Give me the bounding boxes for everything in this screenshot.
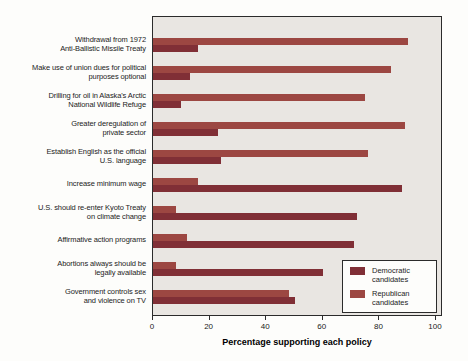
bar-democratic-1 — [153, 73, 190, 80]
bar-republican-5 — [153, 178, 198, 185]
category-label-line: private sector — [102, 128, 146, 138]
bar-democratic-5 — [153, 185, 402, 192]
legend-swatch-republican — [350, 290, 365, 298]
x-axis-tick-labels: 020406080100 — [152, 322, 442, 332]
category-label-line: Increase minimum wage — [67, 179, 146, 189]
bar-democratic-8 — [153, 269, 323, 276]
bar-democratic-2 — [153, 101, 181, 108]
bar-republican-6 — [153, 206, 176, 213]
category-label-3: Greater deregulation ofprivate sector — [0, 117, 146, 139]
bar-republican-9 — [153, 290, 289, 297]
category-label-5: Increase minimum wage — [0, 173, 146, 195]
bar-democratic-6 — [153, 213, 357, 220]
bar-democratic-4 — [153, 157, 221, 164]
legend-entry-democratic: Democratic candidates — [350, 266, 436, 284]
category-label-4: Establish English as the officialU.S. la… — [0, 145, 146, 167]
category-label-6: U.S. should re-enter Kyoto Treatyon clim… — [0, 201, 146, 223]
bar-republican-3 — [153, 122, 405, 129]
bar-republican-2 — [153, 94, 365, 101]
tick-label-100: 100 — [423, 322, 447, 331]
x-axis-tick-marks — [152, 316, 442, 321]
legend: Democratic candidatesRepublican candidat… — [342, 260, 437, 313]
category-label-1: Make use of union dues for politicalpurp… — [0, 61, 146, 83]
category-label-line: Drilling for oil in Alaska's Arctic — [48, 91, 146, 101]
tick-mark-80 — [378, 316, 379, 320]
category-label-line: U.S. should re-enter Kyoto Treaty — [38, 203, 146, 213]
category-label-line: legally available — [95, 268, 146, 278]
bar-republican-1 — [153, 66, 391, 73]
category-label-line: Government controls sex — [65, 287, 146, 297]
tick-label-0: 0 — [140, 322, 164, 331]
tick-mark-60 — [322, 316, 323, 320]
category-label-line: National Wildlife Refuge — [68, 100, 146, 110]
category-label-line: Anti-Ballistic Missile Treaty — [60, 44, 146, 54]
category-label-9: Government controls sexand violence on T… — [0, 285, 146, 307]
policy-support-figure: Withdrawal from 1972Anti-Ballistic Missi… — [0, 0, 468, 361]
bar-democratic-3 — [153, 129, 218, 136]
tick-label-60: 60 — [310, 322, 334, 331]
category-label-2: Drilling for oil in Alaska's ArcticNatio… — [0, 89, 146, 111]
tick-mark-0 — [152, 316, 153, 320]
tick-label-40: 40 — [253, 322, 277, 331]
tick-mark-40 — [265, 316, 266, 320]
category-label-0: Withdrawal from 1972Anti-Ballistic Missi… — [0, 33, 146, 55]
bar-democratic-0 — [153, 45, 198, 52]
bar-democratic-9 — [153, 297, 295, 304]
category-label-line: Establish English as the official — [46, 147, 146, 157]
bar-republican-8 — [153, 262, 176, 269]
category-label-line: and violence on TV — [84, 296, 146, 306]
category-label-7: Affirmative action programs — [0, 229, 146, 251]
category-label-line: Make use of union dues for political — [32, 63, 146, 73]
legend-entry-republican: Republican candidates — [350, 289, 436, 307]
category-label-line: Greater deregulation of — [71, 119, 146, 129]
category-label-8: Abortions always should belegally availa… — [0, 257, 146, 279]
legend-label: Republican candidates — [372, 289, 424, 307]
tick-mark-20 — [209, 316, 210, 320]
bar-republican-7 — [153, 234, 187, 241]
legend-swatch-democratic — [350, 267, 365, 275]
category-label-line: Abortions always should be — [57, 259, 146, 269]
tick-label-80: 80 — [366, 322, 390, 331]
legend-label: Democratic candidates — [372, 266, 424, 284]
tick-mark-100 — [435, 316, 436, 320]
tick-label-20: 20 — [197, 322, 221, 331]
category-label-line: Withdrawal from 1972 — [75, 35, 146, 45]
category-label-line: purposes optional — [88, 72, 146, 82]
bar-republican-0 — [153, 38, 408, 45]
bar-republican-4 — [153, 150, 368, 157]
category-label-line: Affirmative action programs — [58, 235, 146, 245]
category-label-line: U.S. language — [100, 156, 146, 166]
bar-democratic-7 — [153, 241, 354, 248]
category-labels: Withdrawal from 1972Anti-Ballistic Missi… — [0, 16, 146, 316]
category-label-line: on climate change — [87, 212, 146, 222]
x-axis-title: Percentage supporting each policy — [152, 337, 442, 347]
